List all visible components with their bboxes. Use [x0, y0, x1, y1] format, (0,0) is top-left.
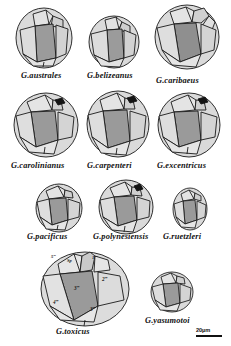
caption-excentricus: G.excentricus — [157, 161, 206, 170]
specimen-drawing-pacificus — [33, 182, 85, 234]
specimen-drawing-ruetzleri — [170, 186, 210, 232]
plate-label-3-triple-prime-center: 3‴ — [74, 285, 79, 291]
caption-toxicus: G.toxicus — [56, 327, 90, 336]
caption-pacificus: G.pacificus — [27, 232, 67, 241]
caption-yasumotoi: G.yasumotoi — [145, 316, 190, 325]
plate-label-3-triple-prime-lower: 3‴ — [90, 306, 95, 312]
specimen-drawing-carpenteri — [84, 88, 152, 160]
specimen-drawing-polynesiensis — [96, 178, 156, 236]
specimen-drawing-yasumotoi — [148, 270, 196, 314]
specimen-drawing-carolinianus — [11, 90, 81, 160]
scale-bar: 20µm — [196, 328, 222, 337]
specimen-drawing-australes — [13, 4, 75, 70]
plate-label-2-triple-prime: 2‴ — [102, 276, 107, 282]
caption-carolinianus: G.carolinianus — [11, 161, 64, 170]
caption-belizeanus: G.belizeanus — [87, 71, 133, 80]
plate-label-4-triple-prime: 4‴ — [53, 299, 58, 305]
caption-caribaeus: G.caribaeus — [156, 76, 199, 85]
figure-plate: G.australes G.belizeanus — [0, 0, 231, 346]
caption-australes: G.australes — [21, 71, 61, 80]
caption-carpenteri: G.carpenteri — [87, 161, 132, 170]
specimen-drawing-belizeanus — [86, 12, 142, 70]
plate-label-1-quad-prime: 1‴′ — [92, 255, 98, 260]
specimen-drawing-excentricus — [155, 90, 223, 160]
specimen-drawing-toxicus — [38, 250, 132, 328]
plate-label-5-triple-prime: 5‴ — [51, 254, 56, 259]
scale-bar-label: 20µm — [196, 328, 222, 334]
caption-ruetzleri: G.ruetzleri — [163, 232, 201, 241]
specimen-drawing-caribaeus — [152, 2, 222, 72]
plate-label-sp: Sp — [67, 258, 72, 263]
caption-polynesiensis: G.polynesiensis — [93, 232, 148, 241]
scale-bar-line — [196, 335, 222, 337]
